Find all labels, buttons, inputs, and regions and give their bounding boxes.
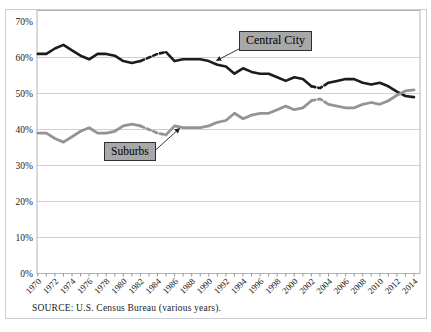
x-axis-label: 2004 — [314, 276, 334, 296]
plot-border — [37, 11, 420, 274]
x-axis-label: 1990 — [195, 276, 215, 296]
x-axis-label: 1994 — [229, 276, 249, 296]
x-axis-label: 2008 — [349, 276, 369, 296]
y-axis-label: 30% — [16, 161, 34, 171]
y-axis-label: 10% — [16, 233, 34, 243]
x-axis-label: 1976 — [75, 276, 95, 296]
central-city-callout-label: Central City — [246, 33, 305, 47]
series-line-suburbs — [311, 99, 328, 104]
line-chart: 0%10%20%30%40%50%60%70%19701972197419761… — [0, 0, 431, 332]
x-axis-label: 1988 — [178, 276, 198, 296]
x-axis-label: 1998 — [263, 276, 283, 296]
x-axis-label: 1984 — [143, 276, 163, 296]
central-city-callout: Central City — [239, 31, 312, 51]
x-axis-label: 1970 — [24, 276, 44, 296]
x-axis-label: 2010 — [366, 276, 386, 296]
x-axis-label: 1974 — [58, 276, 78, 296]
x-axis-label: 1986 — [161, 276, 181, 296]
x-axis-label: 2014 — [400, 276, 420, 296]
y-axis-label: 0% — [20, 269, 33, 279]
x-axis-label: 2006 — [332, 276, 352, 296]
x-axis-label: 1972 — [41, 276, 61, 296]
x-axis-label: 1982 — [126, 276, 146, 296]
source-note: SOURCE: U.S. Census Bureau (various year… — [32, 303, 221, 313]
x-axis-label: 2012 — [383, 276, 403, 296]
y-axis-label: 50% — [16, 89, 34, 99]
x-axis-label: 1996 — [246, 276, 266, 296]
suburbs-callout-label: Suburbs — [111, 145, 149, 157]
y-axis-label: 60% — [16, 53, 34, 63]
series-line-central-city — [38, 45, 141, 63]
x-axis-label: 2002 — [297, 276, 317, 296]
x-axis-label: 2000 — [280, 276, 300, 296]
x-axis-label: 1978 — [92, 276, 112, 296]
y-axis-label: 70% — [16, 17, 34, 27]
y-axis-label: 40% — [16, 125, 34, 135]
y-axis-label: 20% — [16, 197, 34, 207]
x-axis-label: 1980 — [109, 276, 129, 296]
series-line-suburbs — [38, 124, 141, 142]
annotation-arrow — [217, 49, 240, 61]
suburbs-callout: Suburbs — [104, 142, 156, 161]
series-line-central-city — [311, 83, 328, 88]
series-line-suburbs — [329, 90, 415, 108]
x-axis-label: 1992 — [212, 276, 232, 296]
series-line-suburbs — [140, 126, 166, 135]
series-line-central-city — [140, 52, 166, 61]
figure-canvas: 0%10%20%30%40%50%60%70%19701972197419761… — [0, 0, 431, 332]
